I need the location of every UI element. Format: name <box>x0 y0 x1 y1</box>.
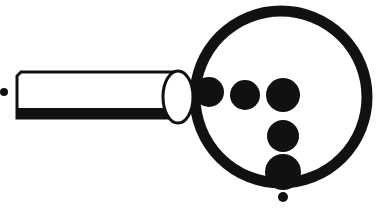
handle-group <box>17 72 180 118</box>
dot-bottom-rim: Dot straddling bottom rim <box>265 154 301 190</box>
dot-below-rim: Small dot below rim <box>278 192 288 202</box>
handle-shadow-band <box>17 108 180 118</box>
handle-ferrule <box>163 71 193 123</box>
illustration-canvas: Dot on left rimTop row middle dotTop row… <box>0 0 388 211</box>
dot-center-lower: Center lower dot <box>267 120 299 152</box>
dot-far-left: Small dot left of handle <box>0 88 8 96</box>
magnifying-glass-illustration: Dot on left rimTop row middle dotTop row… <box>0 0 388 211</box>
dot-top-right: Top row right dot <box>266 78 300 112</box>
dot-top-middle: Top row middle dot <box>230 80 260 110</box>
dot-left-edge: Dot on left rim <box>194 77 224 107</box>
